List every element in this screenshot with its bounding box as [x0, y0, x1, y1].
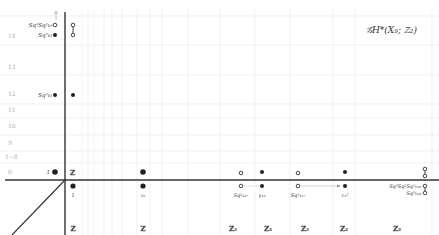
- filled-dot-large: [140, 169, 146, 175]
- label-sq4sq1-iota9: Sq⁴Sq¹ι₉: [29, 22, 53, 29]
- group-label: ℤ: [70, 224, 76, 233]
- label-sq2-iota17-b: Sq²ι₁₇: [291, 192, 306, 199]
- open-dot: [423, 184, 427, 188]
- label-c1-squared: c₁²: [342, 192, 349, 198]
- open-dot: [296, 171, 300, 175]
- chart-title: 𝒢H*(X₉; ℤ₂): [366, 25, 417, 35]
- filled-dot-large: [140, 183, 145, 188]
- row-label-10: 10: [8, 122, 16, 129]
- row-label-14: 14: [8, 32, 16, 39]
- label-sq3-iota9: Sq³ι₉: [38, 92, 53, 99]
- label-sq5-iota9: Sq⁵ι₉: [38, 32, 53, 39]
- filled-dot: [53, 93, 57, 97]
- filled-dot-large: [70, 183, 75, 188]
- row-label-12: 12: [8, 90, 16, 97]
- spectral-chart: 14 13 12 11 10 9 1−8 0 Sq⁴Sq¹ι₉ Sq⁵ι₉ Sq…: [0, 0, 439, 235]
- label-one: 1: [71, 192, 74, 198]
- filled-dot: [260, 170, 264, 174]
- row-label-13: 13: [8, 63, 16, 70]
- open-dot: [423, 191, 427, 195]
- open-dot: [53, 23, 57, 27]
- filled-dot: [53, 33, 57, 37]
- group-label: ℤ₂: [229, 224, 237, 233]
- label-sq5-iota18: Sq⁵ι₁₈: [406, 190, 421, 197]
- label-sq4sq2sq1-iota18: Sq⁴Sq²Sq¹ι₁₈: [389, 183, 421, 190]
- row-label-11: 11: [8, 106, 16, 113]
- filled-dot: [71, 93, 75, 97]
- group-label: ℤ: [140, 224, 146, 233]
- group-label: ℤ₂: [393, 224, 401, 233]
- row-label-9: 9: [8, 139, 12, 146]
- group-label-top: ℤ: [70, 168, 76, 177]
- label-one-left: 1: [47, 169, 51, 175]
- group-label: ℤ₂: [264, 224, 272, 233]
- label-gamma12: γ₁₂: [259, 192, 266, 199]
- filled-dot: [343, 184, 347, 188]
- horizontal-gridlines: [0, 16, 439, 163]
- row-label-1-8: 1−8: [5, 153, 18, 160]
- open-dot: [423, 167, 427, 171]
- open-dot: [71, 23, 75, 27]
- diagonal-axis: [12, 180, 65, 235]
- label-sq2-iota17-a: Sq²ι₁₇: [234, 192, 249, 199]
- open-dot: [423, 174, 427, 178]
- row-label-0: 0: [8, 168, 12, 175]
- label-iota9: ι₉: [141, 192, 145, 198]
- arrow-right-icon: [337, 185, 341, 188]
- filled-dot-large: [52, 169, 58, 175]
- filled-dot: [343, 170, 347, 174]
- group-label: ℤ₂: [301, 224, 309, 233]
- open-dot: [239, 184, 243, 188]
- open-dot: [239, 171, 243, 175]
- open-dot: [71, 33, 75, 37]
- filled-dot: [260, 184, 264, 188]
- open-dot: [296, 184, 300, 188]
- group-label: ℤ₂: [340, 224, 348, 233]
- vertical-gridlines: [82, 10, 432, 235]
